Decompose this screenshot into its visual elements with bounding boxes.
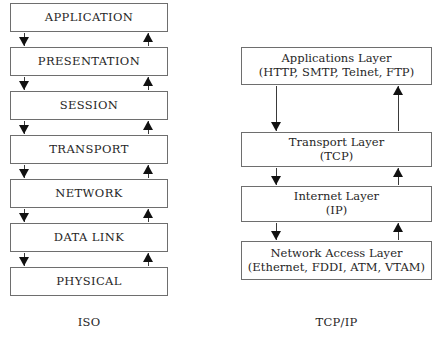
arrow-head — [271, 122, 281, 131]
tcpip-layer-title: Network Access Layer — [270, 247, 402, 261]
arrow-head — [19, 169, 29, 178]
tcpip-layer-title: Applications Layer — [281, 52, 391, 66]
iso-layer-box-presentation[interactable]: PRESENTATION — [10, 47, 168, 76]
up-arrow-icon — [143, 33, 154, 46]
down-arrow-icon — [19, 209, 30, 222]
up-arrow-icon — [143, 165, 154, 178]
iso-layer-box-physical[interactable]: PHYSICAL — [10, 267, 168, 296]
up-arrow-icon — [143, 253, 154, 266]
up-arrow-icon — [143, 121, 154, 134]
iso-layer-box-application[interactable]: APPLICATION — [10, 3, 168, 32]
up-arrow-icon — [143, 209, 154, 222]
tcpip-layer-box-applications[interactable]: Applications Layer (HTTP, SMTP, Telnet, … — [241, 47, 432, 85]
iso-layer-label: SESSION — [60, 99, 119, 113]
arrow-head — [143, 165, 153, 174]
iso-layer-label: APPLICATION — [45, 11, 134, 25]
iso-layer-label: DATA LINK — [54, 231, 124, 245]
arrow-head — [271, 176, 281, 185]
tcpip-layer-detail: (TCP) — [320, 150, 353, 164]
iso-layer-box-session[interactable]: SESSION — [10, 91, 168, 120]
iso-layer-box-transport[interactable]: TRANSPORT — [10, 135, 168, 164]
down-arrow-icon — [19, 33, 30, 46]
arrow-head — [143, 209, 153, 218]
arrow-head — [393, 223, 403, 232]
down-arrow-icon — [271, 86, 282, 131]
arrow-head — [393, 168, 403, 177]
tcpip-layer-detail: (Ethernet, FDDI, ATM, VTAM) — [248, 261, 425, 275]
arrow-head — [143, 77, 153, 86]
up-arrow-icon — [143, 77, 154, 90]
up-arrow-icon — [393, 168, 404, 185]
iso-layer-box-network[interactable]: NETWORK — [10, 179, 168, 208]
iso-layer-box-data-link[interactable]: DATA LINK — [10, 223, 168, 252]
tcpip-layer-detail: (IP) — [326, 204, 347, 218]
arrow-head — [393, 86, 403, 95]
diagram-canvas: APPLICATION PRESENTATION SESSION TRANSPO… — [0, 0, 439, 337]
arrow-head — [143, 253, 153, 262]
arrow-head — [143, 33, 153, 42]
arrow-head — [19, 37, 29, 46]
arrow-head — [271, 231, 281, 240]
up-arrow-icon — [393, 86, 404, 131]
down-arrow-icon — [19, 77, 30, 90]
arrow-head — [19, 257, 29, 266]
down-arrow-icon — [271, 223, 282, 240]
tcpip-layer-detail: (HTTP, SMTP, Telnet, FTP) — [259, 66, 414, 80]
up-arrow-icon — [393, 223, 404, 240]
iso-layer-label: PRESENTATION — [38, 55, 140, 69]
arrow-head — [19, 125, 29, 134]
arrow-head — [143, 121, 153, 130]
down-arrow-icon — [271, 168, 282, 185]
tcpip-layer-box-internet[interactable]: Internet Layer (IP) — [241, 186, 432, 222]
iso-column-label: ISO — [10, 315, 168, 329]
tcpip-layer-box-transport[interactable]: Transport Layer (TCP) — [241, 132, 432, 167]
iso-layer-label: NETWORK — [55, 187, 122, 201]
down-arrow-icon — [19, 165, 30, 178]
tcpip-layer-title: Internet Layer — [294, 190, 379, 204]
iso-layer-label: PHYSICAL — [56, 275, 122, 289]
tcpip-column-label: TCP/IP — [241, 315, 432, 329]
down-arrow-icon — [19, 253, 30, 266]
tcpip-layer-title: Transport Layer — [289, 136, 384, 150]
down-arrow-icon — [19, 121, 30, 134]
tcpip-layer-box-network-access[interactable]: Network Access Layer (Ethernet, FDDI, AT… — [241, 241, 432, 280]
arrow-head — [19, 81, 29, 90]
iso-layer-label: TRANSPORT — [49, 143, 128, 157]
arrow-head — [19, 213, 29, 222]
